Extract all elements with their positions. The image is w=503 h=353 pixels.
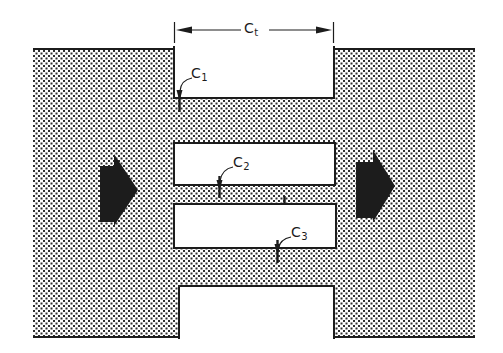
- label-c3-base: C: [291, 224, 301, 240]
- label-c3: C3: [291, 225, 308, 242]
- dimension-arrowhead-right-icon: [316, 27, 332, 34]
- label-c3-sub: 3: [301, 231, 308, 242]
- dimension-arrowhead-left-icon: [176, 27, 192, 34]
- label-c1-base: C: [191, 65, 201, 81]
- label-c2: C2: [233, 155, 250, 172]
- internal-slot-c2: [173, 142, 336, 186]
- label-c2-sub: 2: [243, 161, 250, 172]
- bottom-notch-cutout: [178, 285, 335, 339]
- diagram-canvas: Ct C1 C2 C3: [0, 0, 503, 353]
- internal-slot-c3: [173, 203, 337, 249]
- label-ct: Ct: [244, 21, 259, 38]
- label-c2-base: C: [233, 154, 243, 170]
- label-ct-sub: t: [254, 27, 258, 38]
- label-c1-sub: 1: [201, 72, 208, 83]
- label-c1: C1: [191, 66, 208, 83]
- label-ct-base: C: [244, 20, 254, 36]
